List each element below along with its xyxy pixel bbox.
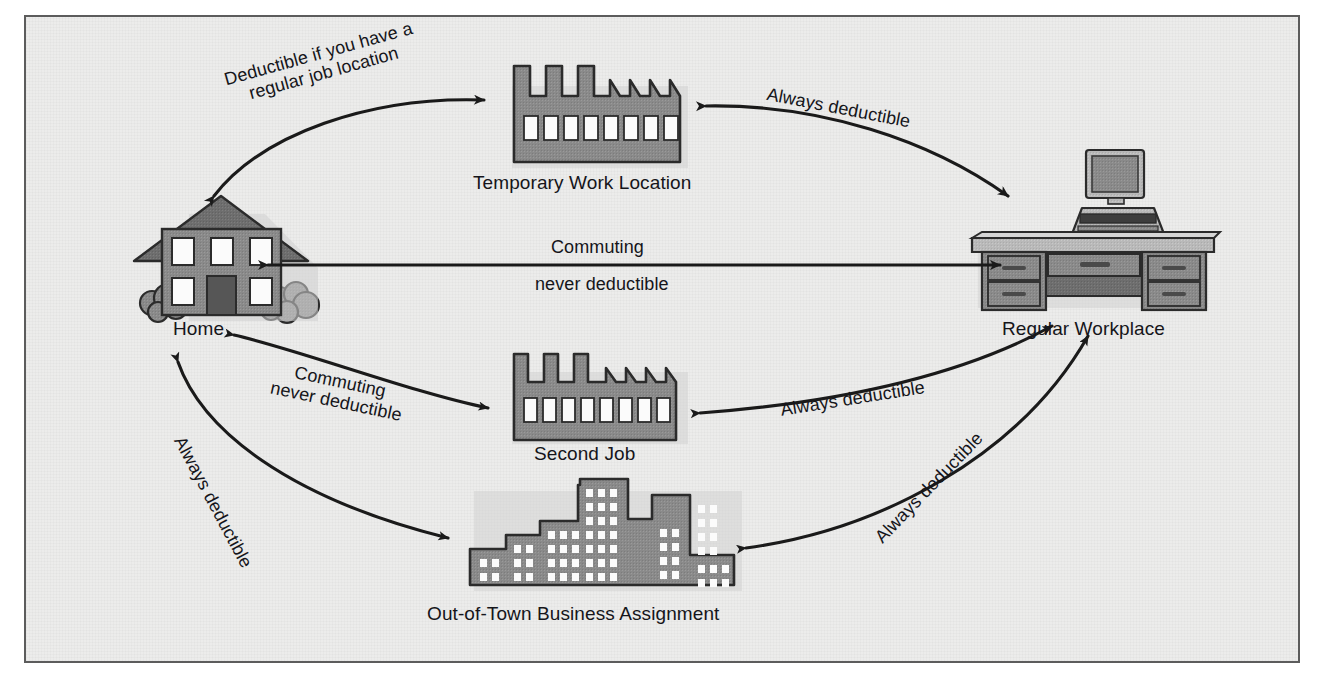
diagram-canvas: Home Temporary Work Location Regular Wor… bbox=[0, 0, 1324, 676]
edge-home-temp bbox=[214, 100, 484, 196]
node-label-regular-workplace: Regular Workplace bbox=[1002, 318, 1165, 340]
node-label-home: Home bbox=[173, 318, 224, 340]
edge-label-home-work-line1: Commuting bbox=[551, 237, 644, 258]
house-icon bbox=[134, 196, 319, 323]
city-skyline-icon bbox=[470, 479, 742, 591]
factory-icon bbox=[512, 66, 688, 168]
edge-label-home-work-line2: never deductible bbox=[535, 274, 669, 295]
desk-computer-icon bbox=[972, 150, 1220, 310]
factory-icon bbox=[512, 354, 688, 444]
node-label-second-job: Second Job bbox=[534, 443, 635, 465]
edge-outoftown-work bbox=[746, 336, 1088, 548]
node-label-out-of-town-business-assignment: Out-of-Town Business Assignment bbox=[427, 603, 719, 625]
node-label-temporary-work-location: Temporary Work Location bbox=[473, 172, 691, 194]
